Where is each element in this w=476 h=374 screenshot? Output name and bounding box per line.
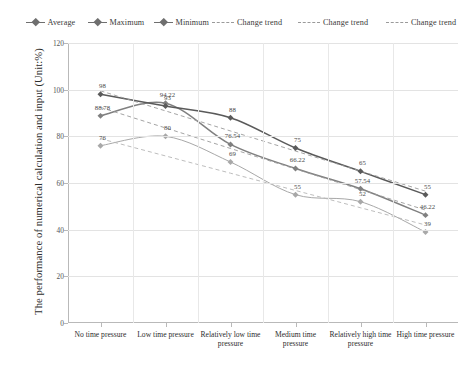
data-label: 55 — [424, 182, 431, 189]
y-axis-tick — [64, 183, 68, 184]
x-tick-label: Low time pressure — [134, 330, 198, 339]
y-axis-tick — [64, 230, 68, 231]
data-point-marker — [228, 115, 234, 121]
legend-dashed-line-icon — [212, 18, 234, 27]
x-tick-label: High time pressure — [394, 330, 458, 339]
data-point-marker — [423, 192, 429, 198]
legend-label: Maximum — [110, 18, 145, 27]
data-point-marker — [423, 212, 429, 218]
y-tick-label: 60 — [57, 179, 64, 188]
data-point-marker — [228, 159, 234, 165]
x-axis-tick — [426, 323, 427, 327]
gridline-vertical — [393, 43, 394, 323]
y-tick-label: 100 — [53, 85, 64, 94]
x-axis-tick — [361, 323, 362, 327]
y-axis-tick — [64, 276, 68, 277]
data-point-marker — [293, 192, 299, 198]
gridline-vertical — [198, 43, 199, 323]
y-tick-label: 40 — [57, 225, 64, 234]
plot-area: 88.7894.2276.5466.2257.5446.229893887565… — [68, 43, 458, 323]
legend-item-maximum-1[interactable]: Maximum — [88, 18, 144, 27]
legend-item-change-trend-3[interactable]: Change trend — [212, 18, 282, 27]
data-point-marker — [358, 199, 364, 205]
x-tick-label: Relatively high time pressure — [329, 330, 393, 349]
data-point-marker — [293, 166, 299, 172]
y-tick-label: 20 — [57, 272, 64, 281]
data-label: 52 — [359, 189, 366, 196]
chart-legend: AverageMaximumMinimumChange trendChange … — [26, 14, 470, 30]
data-label: 80 — [164, 124, 171, 131]
legend-item-minimum-2[interactable]: Minimum — [154, 18, 209, 27]
legend-label: Average — [48, 18, 76, 27]
data-label: 69 — [229, 150, 236, 157]
data-point-marker — [228, 141, 234, 147]
data-label: 75 — [294, 136, 301, 143]
data-label: 55 — [294, 182, 301, 189]
data-label: 65 — [359, 159, 366, 166]
y-axis-tick — [64, 90, 68, 91]
y-axis-title: The performance of numerical calculation… — [33, 32, 44, 332]
legend-dashed-line-icon — [298, 18, 320, 27]
data-point-marker — [98, 91, 104, 97]
x-tick-label: No time pressure — [69, 330, 133, 339]
data-point-marker — [293, 145, 299, 151]
line-chart: AverageMaximumMinimumChange trendChange … — [0, 0, 476, 374]
gridline-vertical — [133, 43, 134, 323]
data-label: 76.54 — [225, 132, 240, 139]
x-tick-label: Medium time pressure — [264, 330, 328, 349]
data-point-marker — [98, 113, 104, 119]
data-label: 88 — [229, 105, 236, 112]
legend-line-marker-icon — [26, 18, 45, 27]
x-axis-tick-labels: No time pressureLow time pressureRelativ… — [68, 330, 458, 370]
data-label: 93 — [164, 94, 171, 101]
x-axis-tick — [166, 323, 167, 327]
x-tick-label: Relatively low time pressure — [199, 330, 263, 349]
legend-item-average-0[interactable]: Average — [26, 18, 75, 27]
data-label: 39 — [424, 220, 431, 227]
data-label: 88.78 — [95, 103, 110, 110]
y-axis-tick — [64, 323, 68, 324]
legend-label: Minimum — [176, 18, 209, 27]
y-axis-tick-labels: 020406080100120 — [44, 43, 64, 323]
data-label: 46.22 — [420, 203, 435, 210]
legend-label: Change trend — [237, 18, 282, 27]
legend-line-marker-icon — [88, 18, 107, 27]
gridline-vertical — [328, 43, 329, 323]
x-axis-tick — [296, 323, 297, 327]
legend-item-change-trend-5[interactable]: Change trend — [386, 18, 456, 27]
legend-dashed-line-icon — [386, 18, 408, 27]
data-point-marker — [358, 168, 364, 174]
y-axis-tick — [64, 136, 68, 137]
y-tick-label: 80 — [57, 132, 64, 141]
x-axis-tick — [231, 323, 232, 327]
data-label: 57.54 — [355, 176, 370, 183]
legend-label: Change trend — [411, 18, 456, 27]
data-label: 66.22 — [290, 156, 305, 163]
x-axis-tick — [101, 323, 102, 327]
data-label: 98 — [99, 82, 106, 89]
legend-item-change-trend-4[interactable]: Change trend — [298, 18, 368, 27]
data-label: 76 — [99, 133, 106, 140]
legend-label: Change trend — [323, 18, 368, 27]
legend-line-marker-icon — [154, 18, 173, 27]
y-tick-label: 120 — [53, 39, 64, 48]
data-point-marker — [98, 143, 104, 149]
y-axis-tick — [64, 43, 68, 44]
gridline-vertical — [263, 43, 264, 323]
